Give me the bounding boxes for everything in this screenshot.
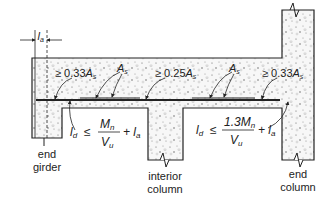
equation-left: ld ≤ Mn Vu + la	[70, 117, 141, 150]
svg-text:Vu: Vu	[230, 133, 243, 148]
label-end-girder-1: end	[38, 148, 56, 160]
svg-text:≤: ≤	[210, 123, 217, 137]
label-end-column-2: column	[280, 181, 315, 193]
svg-text:Vu: Vu	[101, 135, 114, 150]
label-end-column-1: end	[289, 168, 307, 180]
label-end-girder-2: girder	[33, 161, 61, 173]
svg-text:Mn: Mn	[100, 117, 115, 132]
beam-diagram: la ≥ 0.33As As ≥ 0.25As As ≥ 0.33As ld ≤…	[0, 0, 334, 203]
label-interior-column-1: interior	[148, 170, 182, 182]
label-interior-column-2: column	[147, 183, 182, 195]
svg-text:≤: ≤	[84, 125, 91, 139]
label-right-033as: ≥ 0.33As	[262, 67, 304, 80]
label-left-033as: ≥ 0.33As	[55, 67, 97, 80]
equation-right: ld ≤ 1.3Mn Vu + la	[196, 115, 276, 148]
svg-text:1.3Mn: 1.3Mn	[224, 115, 256, 130]
label-mid-025as: ≥ 0.25As	[155, 67, 197, 80]
dimension-la-label: la	[38, 30, 44, 43]
svg-text:+ la: + la	[123, 125, 141, 140]
svg-text:ld: ld	[196, 123, 204, 138]
